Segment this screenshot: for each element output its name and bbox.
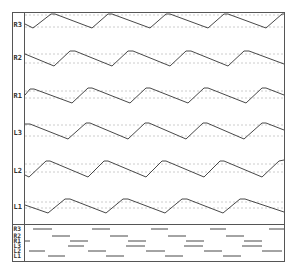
waveform-l2 <box>25 160 284 177</box>
waveform-l1 <box>25 199 284 213</box>
waveform-r3 <box>25 14 284 28</box>
lane-label-r1: R1 <box>14 92 22 100</box>
lane-label-r3: R3 <box>14 21 22 29</box>
chart-frame <box>12 12 285 262</box>
lane-label-r2: R2 <box>14 54 22 62</box>
raster-label-l1: L1 <box>14 252 22 259</box>
reference-guides <box>25 15 284 208</box>
waveform-r1 <box>25 88 284 103</box>
raster-panel: R3R2R1L3L2L1 <box>14 225 285 259</box>
waveform-panel <box>25 14 284 213</box>
lane-label-l3: L3 <box>14 129 22 137</box>
waveform-r2 <box>25 51 284 66</box>
lane-labels: R3R2R1L3L2L1 <box>14 21 22 211</box>
raster-label-r3: R3 <box>14 225 22 232</box>
lane-label-l2: L2 <box>14 167 22 175</box>
lane-label-l1: L1 <box>14 203 22 211</box>
gait-waveform-chart: R3R2R1L3L2L1 R3R2R1L3L2L1 <box>0 0 295 270</box>
